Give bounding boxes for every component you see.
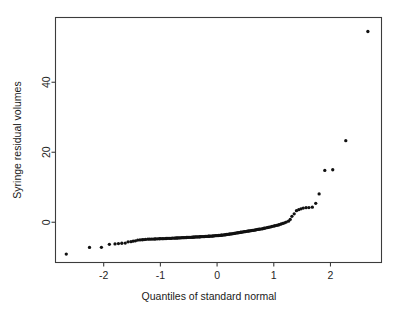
- x-axis-ticks: -2-1012: [99, 263, 334, 281]
- data-point: [126, 240, 129, 243]
- x-axis-title: Quantiles of standard normal: [142, 290, 277, 302]
- data-point: [117, 242, 120, 245]
- data-point: [366, 30, 369, 33]
- y-tick-label: 40: [40, 76, 52, 88]
- data-point: [290, 215, 293, 218]
- data-point: [289, 218, 292, 221]
- data-point: [314, 202, 317, 205]
- data-point: [124, 241, 127, 244]
- data-point: [113, 242, 116, 245]
- data-point: [108, 243, 111, 246]
- qq-plot-figure: -2-1012 02040 Quantiles of standard norm…: [0, 0, 396, 317]
- data-point: [100, 246, 103, 249]
- x-tick-label: 1: [271, 269, 277, 281]
- x-tick-label: -1: [156, 269, 165, 281]
- x-tick-label: 2: [328, 269, 334, 281]
- qq-plot-canvas: -2-1012 02040 Quantiles of standard norm…: [0, 0, 396, 317]
- y-tick-label: 0: [40, 219, 52, 225]
- y-axis-ticks: 02040: [40, 76, 55, 225]
- data-point: [323, 169, 326, 172]
- data-point: [331, 168, 334, 171]
- plot-frame: [56, 18, 382, 263]
- data-point: [302, 206, 305, 209]
- scatter-points: [65, 30, 370, 256]
- data-point: [344, 139, 347, 142]
- y-axis-title: Syringe residual volumes: [11, 81, 23, 198]
- data-point: [311, 206, 314, 209]
- x-tick-label: 0: [214, 269, 220, 281]
- data-point: [307, 206, 310, 209]
- data-point: [65, 252, 68, 255]
- y-tick-label: 20: [40, 146, 52, 158]
- data-point: [120, 242, 123, 245]
- data-point: [304, 206, 307, 209]
- data-point: [317, 192, 320, 195]
- data-point: [88, 246, 91, 249]
- data-point: [293, 212, 296, 215]
- x-tick-label: -2: [99, 269, 108, 281]
